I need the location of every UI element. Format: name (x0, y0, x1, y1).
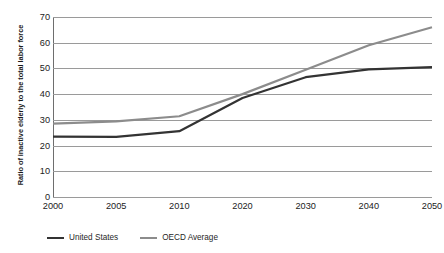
y-axis-tick-label: 30 (28, 115, 50, 125)
x-axis-tick-label: 2030 (283, 200, 329, 212)
y-axis-tick-label: 20 (28, 141, 50, 151)
x-axis-tick-label: 2000 (30, 200, 76, 212)
x-axis-tick-label: 2020 (220, 200, 266, 212)
x-axis-tick-label: 2050 (409, 200, 444, 212)
legend-swatch-icon (140, 237, 157, 240)
legend-swatch-icon (47, 237, 64, 240)
y-axis-tick-label: 10 (28, 166, 50, 176)
y-axis-tick-label: 40 (28, 89, 50, 99)
y-axis-tick-labels: 706050403020100 (24, 0, 50, 253)
series-line (53, 27, 432, 123)
plot-area (53, 17, 432, 197)
x-axis-tick-label: 2040 (346, 200, 392, 212)
legend-label: OECD Average (162, 233, 218, 243)
legend-label: United States (69, 233, 118, 243)
chart-legend: United StatesOECD Average (47, 231, 240, 245)
legend-item[interactable]: United States (47, 233, 118, 243)
y-axis-tick-label: 70 (28, 12, 50, 22)
line-chart: Ratio of inactive elderly to the total l… (0, 0, 444, 253)
y-axis-tick-label: 50 (28, 63, 50, 73)
x-axis-tick-labels: 2000200520102020203020402050 (53, 200, 432, 214)
x-axis-tick-label: 2005 (93, 200, 139, 212)
series-lines (53, 17, 432, 197)
legend-item[interactable]: OECD Average (140, 233, 218, 243)
series-line (53, 67, 432, 137)
x-axis-tick-label: 2010 (156, 200, 202, 212)
y-axis-tick-label: 60 (28, 38, 50, 48)
gridline (53, 197, 432, 198)
